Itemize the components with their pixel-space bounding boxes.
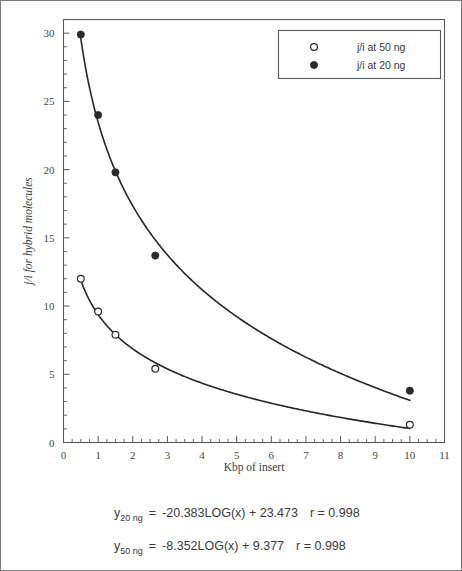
fit-curve-0 <box>81 280 410 428</box>
y-tick-label: 30 <box>44 27 56 39</box>
x-axis-tick-labels: 01234567891011 <box>61 449 450 461</box>
data-points <box>77 31 413 428</box>
x-tick-label: 1 <box>95 449 101 461</box>
eq-50ng-equals: = <box>149 539 156 553</box>
chart-svg: 051015202530 01234567891011 Kbp of inser… <box>1 1 462 571</box>
eq-20ng-expression: -20.383LOG(x) + 23.473 <box>162 506 298 520</box>
eq-50ng-subscript: 50 ng <box>120 546 143 556</box>
y-tick-label: 10 <box>44 300 56 312</box>
legend-marker-open-circle-icon <box>311 44 318 51</box>
equation-20ng: y20 ng=-20.383LOG(x) + 23.473r = 0.998 <box>114 506 360 523</box>
x-tick-label: 11 <box>439 449 450 461</box>
eq-20ng-equals: = <box>149 506 156 520</box>
data-point-series-1-1 <box>95 111 102 118</box>
x-tick-label: 5 <box>234 449 240 461</box>
data-point-series-0-0 <box>77 275 84 282</box>
y-tick-label: 25 <box>44 95 56 107</box>
y-axis-ticks <box>64 20 70 443</box>
equation-50ng: y50 ng=-8.352LOG(x) + 9.377r = 0.998 <box>114 539 346 556</box>
fit-curves <box>81 38 410 428</box>
y-tick-label: 15 <box>44 232 56 244</box>
x-axis-ticks <box>64 436 445 443</box>
y-tick-label: 5 <box>49 368 55 380</box>
x-tick-label: 10 <box>404 449 416 461</box>
y-tick-label: 20 <box>44 164 56 176</box>
equation-annotations: y20 ng=-20.383LOG(x) + 23.473r = 0.998 y… <box>114 506 360 556</box>
eq-50ng-r: r = 0.998 <box>296 539 346 553</box>
legend-box <box>279 31 441 79</box>
legend-label-0: j/i at 50 ng <box>356 41 406 53</box>
y-axis-tick-labels: 051015202530 <box>44 27 56 448</box>
data-point-series-0-2 <box>112 331 119 338</box>
eq-50ng-expression: -8.352LOG(x) + 9.377 <box>162 539 284 553</box>
data-point-series-1-2 <box>112 169 119 176</box>
data-point-series-0-1 <box>95 308 102 315</box>
y-tick-label: 0 <box>49 437 55 449</box>
chart-legend: j/i at 50 ng j/i at 20 ng <box>279 31 441 79</box>
data-point-series-1-4 <box>406 387 413 394</box>
x-tick-label: 4 <box>199 449 205 461</box>
legend-marker-filled-circle-icon <box>310 61 317 68</box>
x-axis-title: Kbp of insert <box>224 461 285 474</box>
figure-container: 051015202530 01234567891011 Kbp of inser… <box>0 0 462 571</box>
x-tick-label: 2 <box>130 449 136 461</box>
x-tick-label: 8 <box>338 449 344 461</box>
x-tick-label: 0 <box>61 449 67 461</box>
y-axis-title: j/i for hybrid molecules <box>22 177 35 287</box>
data-point-series-0-4 <box>406 421 413 428</box>
plot-frame <box>64 20 445 443</box>
x-tick-label: 6 <box>269 449 275 461</box>
legend-label-1: j/i at 20 ng <box>356 59 406 71</box>
x-tick-label: 9 <box>372 449 378 461</box>
x-tick-label: 3 <box>165 449 171 461</box>
data-point-series-1-3 <box>152 252 159 259</box>
eq-20ng-subscript: 20 ng <box>120 513 143 523</box>
x-tick-label: 7 <box>303 449 309 461</box>
eq-20ng-r: r = 0.998 <box>310 506 360 520</box>
chart-plot-area: 051015202530 01234567891011 Kbp of inser… <box>1 1 462 571</box>
data-point-series-0-3 <box>152 365 159 372</box>
data-point-series-1-0 <box>77 31 84 38</box>
